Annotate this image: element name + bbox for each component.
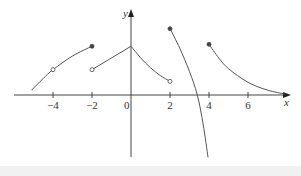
x-axis-label: x [283,96,289,108]
y-axis-label: y [122,7,128,19]
function-curves [32,29,285,158]
piece-4-curve [170,29,208,158]
closed-dot-icon [90,44,94,48]
x-tick-label: −4 [47,99,59,111]
piece-2-curve [92,46,131,69]
x-axis [14,92,291,98]
closed-dot-icon [168,27,172,31]
x-tick-label: −2 [86,99,98,111]
open-circle-icon [168,79,172,83]
closed-dot-icon [207,42,211,46]
bottom-strip [0,166,301,176]
piece-3-curve [131,46,170,81]
open-circle-icon [51,68,55,72]
piece-1-curve [32,46,92,90]
x-tick-label: 4 [206,99,212,111]
x-tick-label: 0 [124,99,130,111]
y-axis [128,9,134,157]
x-tick-label: 2 [167,99,173,111]
piece-5-curve [209,44,285,94]
open-circle-icon [90,68,94,72]
y-axis-arrow-icon [128,9,134,17]
piecewise-function-graph: −4−20246 y x [0,0,301,166]
x-tick-label: 6 [245,99,251,111]
